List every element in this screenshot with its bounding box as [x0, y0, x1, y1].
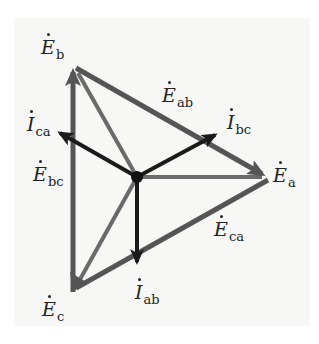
diagram-canvas: Eb Eab Ibc Ica Ebc Ea Eca Iab Ec	[0, 0, 319, 344]
current-ibc	[137, 135, 215, 177]
label-ebc: Ebc	[33, 165, 63, 184]
label-ica: Ica	[27, 115, 51, 134]
phasor-ec	[78, 177, 137, 283]
label-ibc: Ibc	[227, 113, 251, 132]
label-eab: Eab	[162, 86, 193, 105]
label-iab: Iab	[135, 283, 160, 302]
label-ec: Ec	[42, 300, 64, 319]
label-ea: Ea	[273, 166, 296, 185]
neutral-point	[131, 171, 143, 183]
label-eca: Eca	[214, 220, 244, 239]
label-eb: Eb	[41, 38, 64, 57]
